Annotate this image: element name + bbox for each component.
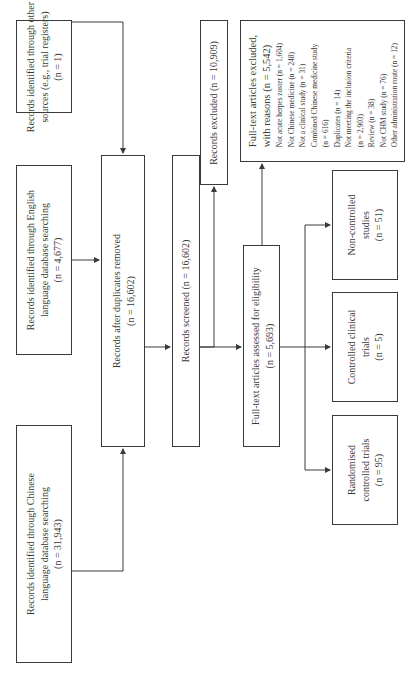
other-sources-box: Records identified through other sources…: [16, 20, 72, 113]
exclusion-reason: Not meeting the inclusion criteria: [342, 35, 353, 147]
records-screened-text: Records screened (n = 16,602): [179, 240, 193, 363]
controlled-clinical-trials-text: Controlled clinical trials (n = 5): [345, 310, 386, 385]
exclusion-reason: (n = 2,903): [354, 35, 365, 147]
records-excluded-box: Records excluded (n = 10,909): [200, 20, 228, 185]
chinese-database-box: Records identified through Chinese langu…: [16, 425, 72, 663]
fulltext-excluded-box: Full-text articles excluded, with reason…: [240, 20, 405, 162]
fulltext-excluded-text: Full-text articles excluded, with reason…: [245, 35, 400, 147]
exclusion-reason: Review (n = 38): [365, 35, 376, 147]
fulltext-assessed-box: Full-text articles assessed for eligibil…: [243, 245, 280, 447]
fulltext-assessed-text: Full-text articles assessed for eligibil…: [248, 267, 275, 425]
duplicates-removed-text: Records after duplicates removed (n = 16…: [110, 234, 137, 368]
exclusion-reason: Not CHM study (n = 76): [377, 35, 388, 147]
exclusion-reason: Not Chinese medicine (n = 248): [285, 35, 296, 147]
randomised-controlled-trials-text: Randomised controlled trials (n = 95): [345, 438, 386, 501]
english-database-text: Records identified through English langu…: [24, 190, 65, 330]
exclusion-reason: Duplicates (n = 14): [331, 35, 342, 147]
records-screened-box: Records screened (n = 16,602): [172, 155, 200, 447]
records-excluded-text: Records excluded (n = 10,909): [207, 41, 221, 165]
non-controlled-studies-box: Non-controlled studies (n = 51): [332, 170, 398, 280]
other-sources-text: Records identified through other sources…: [24, 1, 65, 131]
randomised-controlled-trials-box: Randomised controlled trials (n = 95): [332, 415, 398, 525]
exclusion-reason: Other administration route (n = 12): [388, 35, 399, 147]
exclusion-reason: Not a clinical study (n = 31): [297, 35, 308, 147]
exclusion-reason: (n = 616): [319, 35, 330, 147]
exclusion-reason: Not acute herpes zoster (n = 1,604): [274, 35, 285, 147]
exclusion-reason: Combined Chinese medicine study: [308, 35, 319, 147]
non-controlled-studies-text: Non-controlled studies (n = 51): [345, 194, 386, 255]
duplicates-removed-box: Records after duplicates removed (n = 16…: [101, 155, 145, 447]
chinese-database-text: Records identified through Chinese langu…: [24, 473, 65, 615]
controlled-clinical-trials-box: Controlled clinical trials (n = 5): [332, 292, 398, 402]
english-database-box: Records identified through English langu…: [16, 165, 72, 355]
